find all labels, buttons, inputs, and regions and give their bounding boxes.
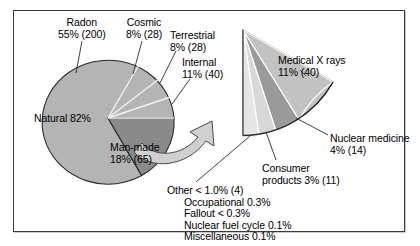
label-consumer-products-line1: Consumer xyxy=(262,162,310,174)
label-man-made-line1: Man-made xyxy=(110,141,159,153)
label-nuclear-medicine-line2: 4% (14) xyxy=(330,144,366,156)
label-nuclear-medicine-line1: Nuclear medicine xyxy=(330,132,410,144)
label-other-breakdown: Other < 1.0% (4) Occupational 0.3% Fallo… xyxy=(167,185,291,243)
label-radon-line1: Radon xyxy=(67,16,97,28)
label-other-miscellaneous: Miscellaneous 0.1% xyxy=(167,231,291,243)
label-medical-xrays: Medical X rays 11% (40) xyxy=(278,55,345,78)
label-medical-xrays-line1: Medical X rays xyxy=(278,54,345,66)
label-nuclear-medicine: Nuclear medicine 4% (14) xyxy=(330,133,410,156)
exploded-manmade-pie xyxy=(243,30,333,136)
label-natural: Natural 82% xyxy=(34,113,91,125)
label-man-made-line2: 18% (65) xyxy=(110,153,152,165)
label-cosmic: Cosmic 8% (28) xyxy=(126,17,162,40)
leader-consumer-products xyxy=(266,132,276,160)
label-terrestrial-line2: 8% (28) xyxy=(170,41,206,53)
label-terrestrial: Terrestrial 8% (28) xyxy=(170,30,215,53)
label-internal: Internal 11% (40) xyxy=(182,57,223,80)
label-internal-line1: Internal xyxy=(182,56,216,68)
label-cosmic-line1: Cosmic xyxy=(127,16,161,28)
label-medical-xrays-line2: 11% (40) xyxy=(278,66,319,78)
label-terrestrial-line1: Terrestrial xyxy=(170,29,215,41)
label-cosmic-line2: 8% (28) xyxy=(126,28,162,40)
label-radon-line2: 55% (200) xyxy=(58,28,106,40)
label-radon: Radon 55% (200) xyxy=(58,17,106,40)
label-consumer-products-line2: products 3% (11) xyxy=(262,174,340,186)
radiation-exposure-figure: Radon 55% (200) Cosmic 8% (28) Terrestri… xyxy=(0,0,420,246)
leader-internal xyxy=(172,79,190,104)
leader-nuclear-medicine xyxy=(296,118,328,135)
label-man-made: Man-made 18% (65) xyxy=(110,142,159,165)
leader-terrestrial xyxy=(160,51,176,83)
label-consumer-products: Consumer products 3% (11) xyxy=(262,163,340,186)
label-other-head: Other < 1.0% (4) xyxy=(167,184,243,196)
label-internal-line2: 11% (40) xyxy=(182,68,223,80)
